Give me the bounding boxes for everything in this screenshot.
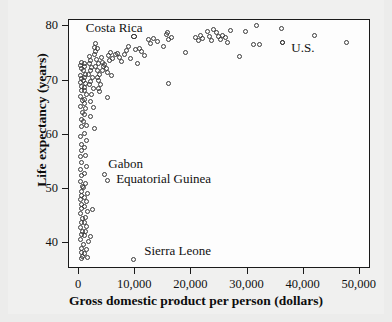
figure-root: Life expectancy (years) Gross domestic p… (0, 0, 392, 322)
scatter-point (97, 89, 102, 94)
scatter-point (126, 44, 131, 49)
scatter-point (131, 257, 136, 262)
x-tick-mark (134, 268, 135, 274)
y-tick-label: 40 (30, 236, 58, 249)
scatter-point (95, 46, 100, 51)
y-tick-label: 70 (30, 74, 58, 87)
y-tick-label: 50 (30, 182, 58, 195)
scatter-point (82, 145, 87, 150)
scatter-point (82, 233, 87, 238)
scatter-point (88, 99, 93, 104)
scatter-point (142, 53, 147, 58)
x-tick-label: 50,000 (342, 278, 376, 291)
scatter-point (279, 26, 284, 31)
scatter-point (228, 28, 233, 33)
scatter-point (83, 153, 88, 158)
scatter-point (84, 138, 89, 143)
scatter-point (237, 54, 242, 59)
plot-area: Costa RicaGabonEquatorial GuineaSierra L… (68, 19, 370, 268)
scatter-point (209, 38, 214, 43)
scatter-point (85, 255, 90, 260)
scatter-point (131, 34, 136, 39)
scatter-point (155, 39, 160, 44)
scatter-point (89, 92, 94, 97)
scatter-point (124, 48, 129, 53)
x-tick-label: 10,000 (117, 278, 151, 291)
scatter-point (83, 106, 88, 111)
point-annotation: Sierra Leone (144, 244, 211, 257)
scatter-point (109, 73, 114, 78)
scatter-point (79, 256, 84, 261)
scatter-point (84, 164, 89, 169)
scatter-point (165, 30, 170, 35)
scatter-point (86, 239, 91, 244)
scatter-point (90, 207, 95, 212)
scatter-point (223, 35, 228, 40)
scatter-point (166, 81, 171, 86)
scatter-point (128, 56, 133, 61)
x-tick-mark (359, 268, 360, 274)
point-annotation: Costa Rica (86, 21, 143, 34)
x-tick-label: 30,000 (229, 278, 263, 291)
scatter-point (135, 61, 140, 66)
scatter-point (344, 40, 349, 45)
scatter-point (105, 95, 110, 100)
x-tick-mark (303, 268, 304, 274)
x-tick-label: 0 (75, 278, 81, 291)
scatter-point (81, 185, 86, 190)
scatter-point (82, 204, 87, 209)
scatter-point (119, 59, 124, 64)
scatter-point (91, 105, 96, 110)
scatter-point (254, 23, 259, 28)
point-annotation: U.S. (291, 41, 314, 54)
scatter-point (257, 42, 262, 47)
scatter-point (183, 50, 188, 55)
y-tick-label: 80 (30, 19, 58, 32)
scatter-point (82, 171, 87, 176)
scatter-point (251, 42, 256, 47)
x-axis-title: Gross domestic product per person (dolla… (0, 293, 392, 309)
x-tick-mark (78, 268, 79, 274)
scatter-point (83, 215, 88, 220)
scatter-point (82, 112, 87, 117)
x-tick-label: 20,000 (173, 278, 207, 291)
scatter-point (161, 44, 166, 49)
point-annotation: Equatorial Guinea (116, 172, 211, 185)
scatter-point (280, 40, 285, 45)
scatter-point (105, 178, 110, 183)
point-annotation: Gabon (108, 157, 143, 170)
scatter-point (169, 35, 174, 40)
scatter-point (200, 36, 205, 41)
x-tick-mark (247, 268, 248, 274)
scatter-point (110, 56, 115, 61)
scatter-point (102, 172, 107, 177)
scatter-point (243, 29, 248, 34)
scatter-point (88, 234, 93, 239)
y-tick-label: 60 (30, 128, 58, 141)
scatter-point (225, 40, 230, 45)
scatter-point (92, 126, 97, 131)
x-tick-label: 40,000 (285, 278, 319, 291)
x-tick-mark (190, 268, 191, 274)
scatter-point (312, 33, 317, 38)
scatter-point (88, 114, 93, 119)
scatter-point (148, 41, 153, 46)
scatter-point (82, 131, 87, 136)
scatter-point (84, 123, 89, 128)
